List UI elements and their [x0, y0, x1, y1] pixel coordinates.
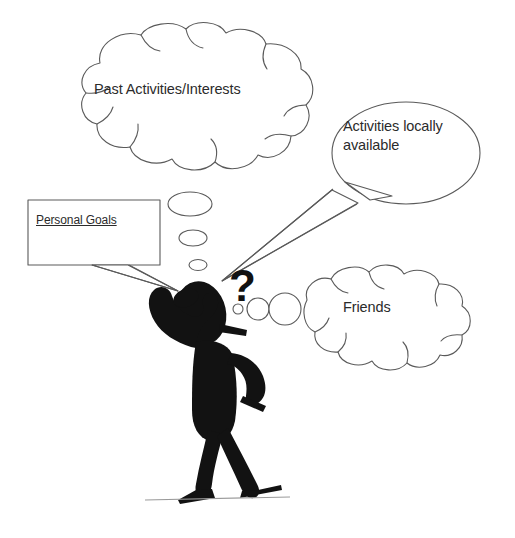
figure-left-foot: [178, 489, 215, 504]
figure-nose: [219, 324, 247, 336]
figure-right-leg: [217, 428, 259, 498]
diagram-artwork: ?: [0, 0, 515, 538]
friends-cloud-shape: [304, 265, 470, 370]
ground-line: [145, 497, 290, 500]
thought-bubble-trail-left-shape: [168, 192, 212, 271]
past-activities-label: Past Activities/Interests: [94, 80, 241, 99]
diagram-canvas: ? Past Ac: [0, 0, 515, 538]
activities-local-label: Activities locally available: [343, 117, 443, 154]
friends-label: Friends: [343, 298, 391, 317]
question-mark: ?: [229, 261, 256, 310]
personal-goals-label: Personal Goals: [36, 213, 117, 228]
